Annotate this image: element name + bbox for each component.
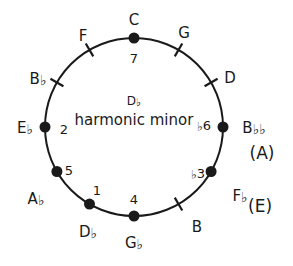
enharmonic-label-bbb: (A) <box>250 145 275 162</box>
note-label-d: D <box>224 71 236 86</box>
note-label-fb: F♭ <box>232 189 247 204</box>
note-label-ab: A♭ <box>28 192 45 207</box>
scale-degree-dot-bbb <box>218 122 229 133</box>
note-label-bb: B♭ <box>30 72 47 87</box>
degree-label-gb: 4 <box>130 193 138 206</box>
position-tick-d <box>205 79 218 87</box>
degree-label-c: 7 <box>130 52 138 65</box>
degree-label-ab: 5 <box>65 164 73 177</box>
note-label-b: B <box>192 220 202 235</box>
scale-degree-dot-db <box>84 199 95 210</box>
note-label-gb: G♭ <box>125 236 143 251</box>
enharmonic-label-fb: (E) <box>248 198 272 215</box>
note-label-bbb: B♭♭ <box>242 121 265 136</box>
position-tick-f <box>86 43 94 56</box>
scale-degree-dot-ab <box>51 166 62 177</box>
scale-degree-dot-gb <box>129 211 140 222</box>
scale-degree-dot-c <box>129 33 140 44</box>
degree-label-db: 1 <box>93 184 101 197</box>
center-key-label: D♭ <box>127 95 141 107</box>
degree-label-eb: 2 <box>60 123 68 136</box>
note-label-f: F <box>79 29 88 44</box>
note-label-db: D♭ <box>79 225 97 240</box>
scale-degree-dot-fb <box>206 166 217 177</box>
scale-degree-dot-eb <box>40 122 51 133</box>
position-tick-g <box>175 43 183 56</box>
circle-diagram: C7GDB♭♭♭6(A)F♭♭3(E)BG♭4D♭1A♭5E♭2B♭F D♭ h… <box>0 0 293 266</box>
position-tick-bb <box>50 79 63 87</box>
degree-label-bbb: ♭6 <box>197 119 211 133</box>
note-label-c: C <box>129 13 139 28</box>
note-label-g: G <box>178 26 190 41</box>
center-scale-label: harmonic minor <box>75 113 194 128</box>
degree-label-fb: ♭3 <box>191 167 205 181</box>
position-tick-b <box>175 198 183 211</box>
note-label-eb: E♭ <box>17 121 33 136</box>
